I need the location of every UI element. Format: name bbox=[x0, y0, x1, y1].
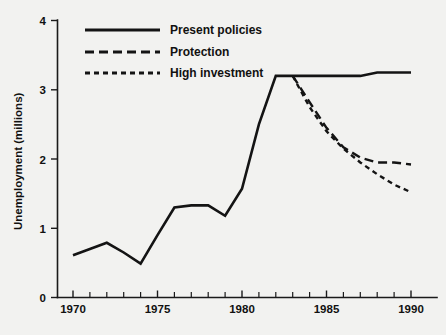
x-tick-label-1990: 1990 bbox=[398, 303, 424, 315]
y-axis-tick-labels: 4 3 2 1 0 bbox=[40, 15, 47, 304]
legend-label-present-policies: Present policies bbox=[170, 23, 262, 37]
x-tick-label-1970: 1970 bbox=[60, 303, 86, 315]
x-tick-label-1980: 1980 bbox=[229, 303, 255, 315]
y-tick-label-1: 1 bbox=[40, 223, 47, 235]
legend-label-high-investment: High investment bbox=[170, 66, 263, 80]
legend-item-present-policies: Present policies bbox=[85, 23, 262, 37]
x-tick-label-1985: 1985 bbox=[314, 303, 340, 315]
series-line-protection bbox=[293, 76, 411, 165]
chart-figure: 4 3 2 1 0 Unemployment (millions) bbox=[0, 0, 446, 335]
y-tick-label-3: 3 bbox=[40, 84, 46, 96]
y-axis-title: Unemployment (millions) bbox=[12, 92, 24, 230]
y-tick-label-2: 2 bbox=[40, 154, 46, 166]
line-chart: 4 3 2 1 0 Unemployment (millions) bbox=[0, 0, 446, 335]
legend-item-protection: Protection bbox=[85, 45, 229, 59]
data-series-group bbox=[73, 72, 411, 263]
chart-legend: Present policies Protection High investm… bbox=[85, 23, 263, 80]
x-axis-ticks bbox=[73, 291, 411, 298]
legend-label-protection: Protection bbox=[170, 45, 229, 59]
y-tick-label-4: 4 bbox=[40, 15, 47, 27]
y-tick-label-0: 0 bbox=[40, 292, 46, 304]
x-tick-label-1975: 1975 bbox=[145, 303, 171, 315]
series-line-present-policies bbox=[73, 72, 411, 263]
x-axis-tick-labels: 1970 1975 1980 1985 1990 bbox=[60, 303, 424, 315]
y-axis-ticks bbox=[51, 21, 58, 298]
series-line-high-investment bbox=[293, 76, 411, 192]
legend-item-high-investment: High investment bbox=[85, 66, 263, 80]
